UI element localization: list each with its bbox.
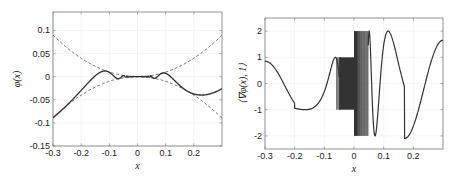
x-tick-label: -0.1 bbox=[317, 151, 333, 161]
x-tick-label: -0.1 bbox=[102, 148, 118, 158]
x-tick-label: -0.3 bbox=[257, 151, 273, 161]
x-tick-label: -0.2 bbox=[287, 151, 303, 161]
y-tick-label: -1 bbox=[254, 105, 262, 115]
y-tick-label: -0.1 bbox=[34, 118, 50, 128]
x-axis-label: x bbox=[351, 163, 357, 174]
y-tick-label: 0 bbox=[45, 72, 50, 82]
x-tick-label: 0.2 bbox=[188, 148, 201, 158]
x-tick-label: 0.1 bbox=[159, 148, 172, 158]
figure: -0.3-0.2-0.100.10.20.10.050-0.05-0.1-0.1… bbox=[0, 0, 453, 183]
y-tick-label: 1 bbox=[257, 52, 262, 62]
x-axis-label: x bbox=[134, 160, 140, 171]
y-tick-label: 0 bbox=[257, 79, 262, 89]
y-axis-label: ⟨∇φ(x), 1⟩ bbox=[237, 63, 249, 105]
y-tick-label: -0.05 bbox=[29, 95, 50, 105]
y-tick-label: -2 bbox=[254, 131, 262, 141]
dense-band-2 bbox=[354, 31, 358, 136]
y-tick-label: 2 bbox=[257, 26, 262, 36]
x-tick-label: 0 bbox=[135, 148, 140, 158]
left-plot-phi: -0.3-0.2-0.100.10.20.10.050-0.05-0.1-0.1… bbox=[11, 12, 222, 171]
x-tick-label: 0.2 bbox=[407, 151, 420, 161]
dense-band-1 bbox=[339, 57, 354, 109]
x-tick-label: 0.1 bbox=[377, 151, 390, 161]
y-axis-label: φ(x) bbox=[11, 70, 23, 87]
y-tick-label: -0.15 bbox=[29, 141, 50, 151]
x-tick-label: -0.2 bbox=[73, 148, 89, 158]
y-tick-label: 0.05 bbox=[32, 49, 50, 59]
y-tick-label: 0.1 bbox=[37, 25, 50, 35]
gradient-curve-right bbox=[368, 31, 443, 138]
right-plot-gradient: -0.3-0.2-0.100.10.2210-1-2x⟨∇φ(x), 1⟩ bbox=[237, 18, 443, 174]
x-tick-label: 0 bbox=[351, 151, 356, 161]
